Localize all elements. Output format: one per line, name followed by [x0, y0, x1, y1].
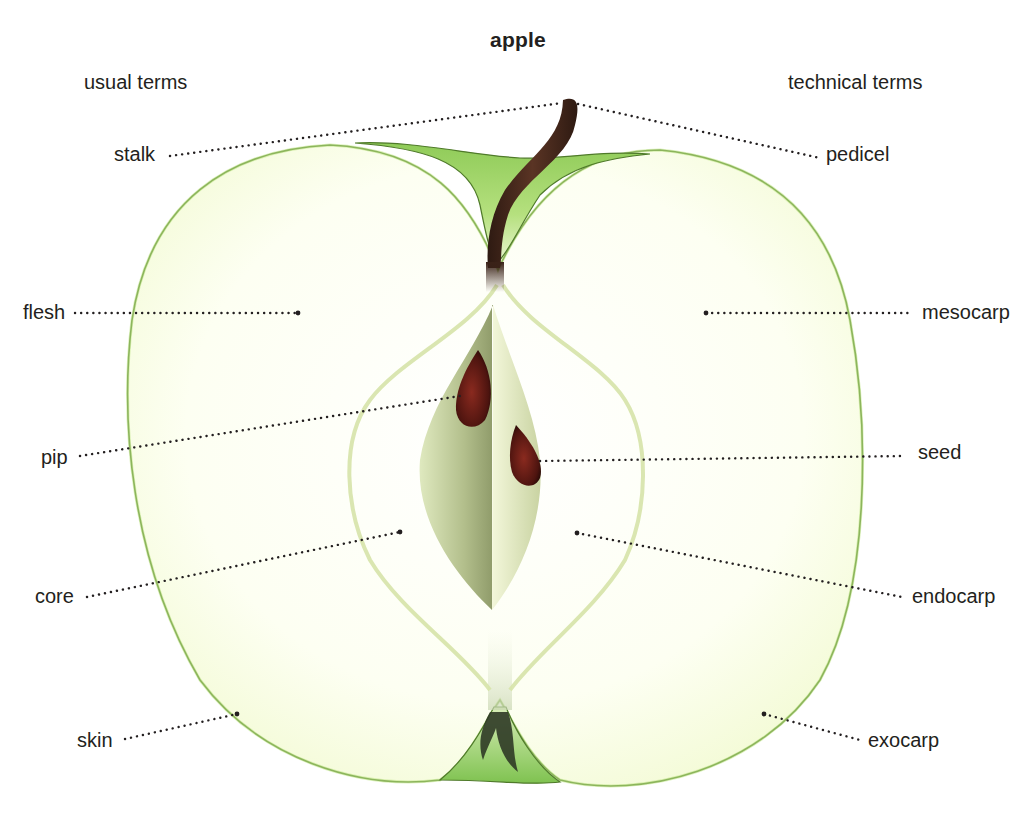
- label-mesocarp: mesocarp: [922, 300, 1010, 324]
- apple-diagram: apple usual terms technical terms stalk …: [0, 0, 1036, 821]
- technical-terms-heading: technical terms: [788, 71, 923, 94]
- stalk-base: [486, 262, 504, 292]
- label-pip: pip: [41, 445, 68, 469]
- diagram-title: apple: [0, 28, 1036, 52]
- leader-skin: [125, 714, 237, 739]
- usual-terms-heading: usual terms: [84, 71, 187, 94]
- label-stalk: stalk: [114, 142, 155, 166]
- label-core: core: [35, 584, 74, 608]
- label-seed: seed: [918, 440, 961, 464]
- label-pedicel: pedicel: [826, 142, 889, 166]
- apple-illustration: [0, 0, 1036, 821]
- label-exocarp: exocarp: [868, 728, 939, 752]
- label-skin: skin: [77, 728, 113, 752]
- calyx-tube: [488, 630, 512, 710]
- leader-pedicel: [578, 104, 820, 158]
- label-flesh: flesh: [23, 300, 65, 324]
- label-endocarp: endocarp: [912, 584, 995, 608]
